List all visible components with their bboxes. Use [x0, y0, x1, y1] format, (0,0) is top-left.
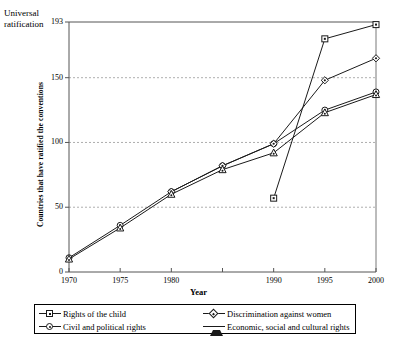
- legend-diamond-icon: [209, 309, 219, 319]
- y-tick-label-150: 150: [27, 73, 63, 82]
- series-0-point-0-dot: [273, 197, 275, 199]
- y-tick-label-0: 0: [27, 267, 63, 276]
- series-3-point-4-dot: [273, 153, 275, 155]
- y-tick-label-100: 100: [27, 137, 63, 146]
- chart-figure: Universalratification Countries that hav…: [0, 0, 397, 342]
- x-tick-label-1995: 1995: [305, 276, 345, 285]
- series-3-point-3-dot: [222, 170, 224, 172]
- series-3-point-5-dot: [324, 113, 326, 115]
- x-tick-label-1975: 1975: [100, 276, 140, 285]
- series-2-point-3-dot: [324, 79, 326, 81]
- series-line-3: [69, 95, 376, 260]
- plot-area: [0, 0, 397, 342]
- legend-item-3[interactable]: Economic, social and cultural rights: [203, 320, 350, 333]
- legend-label-2: Discrimination against women: [227, 309, 331, 319]
- legend-label-3: Economic, social and cultural rights: [227, 322, 350, 332]
- y-tick-label-193: 193: [27, 17, 63, 26]
- series-2-point-2-dot: [273, 143, 275, 145]
- x-tick-label-2000: 2000: [356, 276, 396, 285]
- legend-marker-diamond-icon: [203, 308, 225, 319]
- legend-triangle-icon: [210, 323, 223, 336]
- x-tick-label-1980: 1980: [151, 276, 191, 285]
- series-0-point-2-dot: [375, 24, 377, 26]
- legend-column-right: Discrimination against womenEconomic, so…: [203, 307, 350, 333]
- x-tick-label-1970: 1970: [49, 276, 89, 285]
- legend-item-1[interactable]: Civil and political rights: [39, 320, 146, 333]
- y-tick-label-50: 50: [27, 202, 63, 211]
- legend-circle-icon: [46, 323, 53, 330]
- series-3-point-1-dot: [119, 228, 121, 230]
- legend-item-0[interactable]: Rights of the child: [39, 307, 146, 320]
- series-line-1: [69, 92, 376, 258]
- legend-marker-triangle-icon: [203, 321, 225, 332]
- legend-label-1: Civil and political rights: [63, 322, 146, 332]
- series-3-point-2-dot: [170, 194, 172, 196]
- series-0-point-1-dot: [324, 38, 326, 40]
- series-3-point-6-dot: [375, 95, 377, 97]
- legend-column-left: Rights of the childCivil and political r…: [39, 307, 146, 333]
- legend-square-icon: [46, 310, 53, 317]
- legend-marker-square-icon: [39, 308, 61, 319]
- x-tick-label-1990: 1990: [254, 276, 294, 285]
- legend-label-0: Rights of the child: [63, 309, 126, 319]
- chart-legend: Rights of the childCivil and political r…: [34, 304, 356, 334]
- series-3-point-0-dot: [68, 259, 70, 261]
- legend-item-2[interactable]: Discrimination against women: [203, 307, 350, 320]
- legend-marker-circle-icon: [39, 321, 61, 332]
- series-line-2: [171, 58, 376, 191]
- series-2-point-4-dot: [375, 57, 377, 59]
